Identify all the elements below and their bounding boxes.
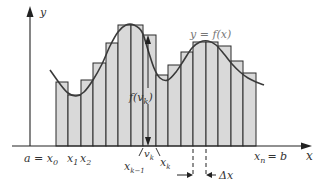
x-axis-label: x <box>306 149 313 163</box>
riemann-diagram-svg: y x y = f(x) f(vk) a = x0 x1 x2 vk xk−1 … <box>0 0 322 190</box>
riemann-bar <box>106 43 118 146</box>
riemann-bar <box>243 73 256 146</box>
xn-equals-b-label: xn= b <box>254 150 287 165</box>
delta-x-label: Δx <box>218 169 234 182</box>
a-equals-x0-label: a = x0 <box>24 152 58 167</box>
riemann-bar <box>206 42 218 146</box>
xk-label: xk <box>160 156 170 171</box>
vk-label: vk <box>144 148 154 162</box>
delta-x-indicator <box>177 149 216 178</box>
y-axis-label: y <box>39 6 47 19</box>
riemann-bars <box>56 25 256 146</box>
riemann-bar <box>181 52 193 146</box>
riemann-bar <box>168 65 181 146</box>
riemann-bar <box>81 80 93 146</box>
riemann-bar <box>68 95 81 146</box>
riemann-bar <box>118 25 131 146</box>
x1-label: x1 <box>67 152 78 167</box>
curve-label: y = f(x) <box>189 28 231 41</box>
riemann-bar <box>156 75 168 146</box>
height-label: f(vk) <box>128 91 153 106</box>
riemann-bar <box>193 42 206 146</box>
riemann-bar <box>131 25 143 146</box>
riemann-sum-figure: y x y = f(x) f(vk) a = x0 x1 x2 vk xk−1 … <box>0 0 322 190</box>
xk-minus-1-label: xk−1 <box>124 160 145 175</box>
x2-label: x2 <box>80 152 91 167</box>
